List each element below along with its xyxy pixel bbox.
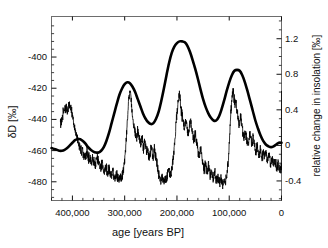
right-tick-label: 0.4 — [285, 104, 298, 115]
left-tick-label: -420 — [14, 82, 47, 93]
right-tick-label: 1.2 — [285, 33, 298, 44]
right-tick-label: -0.4 — [285, 175, 301, 186]
figure-container: δD [‰] relative change in insolation [‰]… — [0, 0, 328, 248]
x-tick-label: 400,000 — [47, 207, 97, 218]
right-tick-label: 0 — [285, 139, 290, 150]
x-tick-label: 0 — [257, 207, 307, 218]
left-tick-label: -480 — [14, 176, 47, 187]
right-tick-label: 0.8 — [285, 68, 298, 79]
x-tick-label: 200,000 — [152, 207, 202, 218]
right-axis-title: relative change in insolation [‰] — [311, 0, 322, 226]
left-tick-label: -400 — [14, 51, 47, 62]
x-tick-label: 100,000 — [204, 207, 254, 218]
x-tick-label: 300,000 — [100, 207, 150, 218]
left-tick-label: -440 — [14, 113, 47, 124]
left-tick-label: -460 — [14, 145, 47, 156]
x-axis-title: age [years BP] — [112, 226, 184, 238]
